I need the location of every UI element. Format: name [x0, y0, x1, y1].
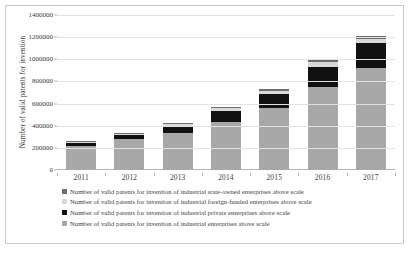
- plot-area: 0200000400000600000800000100000012000001…: [57, 15, 395, 170]
- legend-swatch-base: [62, 221, 67, 226]
- y-axis-tick-label: 1400000: [29, 11, 54, 19]
- bar-segment-base[interactable]: [259, 108, 289, 170]
- gridline: [57, 37, 395, 38]
- x-axis-tick-mark: [202, 173, 203, 176]
- bar-slot: [250, 15, 298, 170]
- bar-slot: [202, 15, 250, 170]
- legend-swatch-foreign: [62, 199, 67, 204]
- y-axis-title: Number of valid patents for invention: [19, 22, 27, 162]
- x-axis-tick-mark: [250, 173, 251, 176]
- x-axis-tick-mark: [395, 173, 396, 176]
- x-axis-tick-mark: [298, 173, 299, 176]
- x-axis-tick-mark: [347, 173, 348, 176]
- bar-segment-private[interactable]: [211, 111, 241, 122]
- bar-segment-base[interactable]: [356, 68, 386, 170]
- x-axis-tick-label: 2016: [298, 173, 346, 182]
- y-axis-tick-label: 400000: [32, 122, 53, 130]
- stacked-bar[interactable]: [114, 133, 144, 170]
- legend-item[interactable]: Number of valid patents for invention of…: [62, 207, 392, 218]
- y-axis-tick-label: 200000: [32, 144, 53, 152]
- bar-segment-private[interactable]: [259, 94, 289, 108]
- y-axis-tick-mark: [54, 103, 57, 104]
- gridline: [57, 104, 395, 105]
- legend-label: Number of valid patents for invention of…: [70, 209, 290, 216]
- bar-segment-base[interactable]: [308, 87, 338, 170]
- legend-swatch-state: [62, 189, 67, 194]
- y-axis-tick-mark: [54, 37, 57, 38]
- y-axis-tick-mark: [54, 81, 57, 82]
- legend-label: Number of valid patents for invention of…: [70, 220, 270, 227]
- y-axis-tick-label: 800000: [32, 77, 53, 85]
- legend-item[interactable]: Number of valid patents for invention of…: [62, 218, 392, 229]
- y-axis-tick-mark: [54, 15, 57, 16]
- chart-legend: Number of valid patents for invention of…: [62, 186, 392, 228]
- legend-item[interactable]: Number of valid patents for invention of…: [62, 197, 392, 208]
- y-axis-tick-label: 0: [50, 166, 54, 174]
- bar-segment-base[interactable]: [114, 139, 144, 170]
- gridline: [57, 126, 395, 127]
- y-axis-tick-label: 1200000: [29, 33, 54, 41]
- stacked-bar[interactable]: [66, 141, 96, 170]
- x-axis-tick-label: 2014: [202, 173, 250, 182]
- gridline: [57, 15, 395, 16]
- x-axis-tick-label: 2015: [250, 173, 298, 182]
- legend-label: Number of valid patents for invention of…: [70, 198, 312, 205]
- legend-swatch-private: [62, 210, 67, 215]
- stacked-bar[interactable]: [163, 123, 193, 170]
- gridline: [57, 59, 395, 60]
- legend-item[interactable]: Number of valid patents for invention of…: [62, 186, 392, 197]
- stacked-bar[interactable]: [211, 107, 241, 170]
- y-axis-tick-mark: [54, 170, 57, 171]
- x-axis-labels: 2011201220132014201520162017: [57, 173, 395, 182]
- bar-segment-base[interactable]: [66, 146, 96, 170]
- gridline: [57, 148, 395, 149]
- bar-group: [57, 15, 395, 170]
- legend-label: Number of valid patents for invention of…: [70, 188, 304, 195]
- y-axis-tick-mark: [54, 59, 57, 60]
- bar-slot: [298, 15, 346, 170]
- x-axis-tick-label: 2012: [105, 173, 153, 182]
- stacked-bar-chart: Number of valid patents for invention 02…: [0, 0, 409, 254]
- x-axis-tick-mark: [154, 173, 155, 176]
- x-axis-tick-label: 2013: [154, 173, 202, 182]
- y-axis-tick-label: 1000000: [29, 55, 54, 63]
- y-axis-tick-mark: [54, 125, 57, 126]
- y-axis-tick-label: 600000: [32, 100, 53, 108]
- bar-segment-base[interactable]: [211, 122, 241, 170]
- gridline: [57, 81, 395, 82]
- bar-slot: [105, 15, 153, 170]
- bar-slot: [57, 15, 105, 170]
- bar-slot: [154, 15, 202, 170]
- bar-segment-base[interactable]: [163, 133, 193, 170]
- x-axis-tick-label: 2011: [57, 173, 105, 182]
- x-axis-tick-mark: [57, 173, 58, 176]
- y-axis-tick-mark: [54, 147, 57, 148]
- bar-slot: [347, 15, 395, 170]
- bar-segment-private[interactable]: [356, 43, 386, 69]
- bar-segment-private[interactable]: [308, 67, 338, 87]
- x-axis-tick-label: 2017: [347, 173, 395, 182]
- x-axis-tick-mark: [105, 173, 106, 176]
- stacked-bar[interactable]: [308, 60, 338, 170]
- stacked-bar[interactable]: [259, 89, 289, 170]
